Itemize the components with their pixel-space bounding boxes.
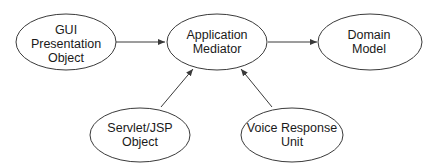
node-servlet-jsp-object: Servlet/JSP Object [90,108,190,162]
node-label: Unit [281,135,304,149]
edge-servlet-to-mediator [161,69,193,107]
node-label: Domain [347,28,390,42]
edge-voice-to-mediator [241,69,272,107]
node-application-mediator: Application Mediator [167,14,267,70]
node-label: GUI [55,23,77,37]
node-gui-presentation-object: GUI Presentation Object [16,14,116,70]
architecture-diagram: GUI Presentation Object Application Medi… [0,0,433,165]
node-label: Object [122,135,159,149]
node-label: Servlet/JSP [107,121,172,135]
node-label: Presentation [31,37,101,51]
node-label: Object [48,51,85,65]
node-label: Mediator [193,42,242,56]
node-label: Model [352,42,386,56]
node-domain-model: Domain Model [318,14,422,70]
node-voice-response-unit: Voice Response Unit [241,108,343,162]
node-label: Voice Response [247,121,337,135]
node-label: Application [186,28,247,42]
